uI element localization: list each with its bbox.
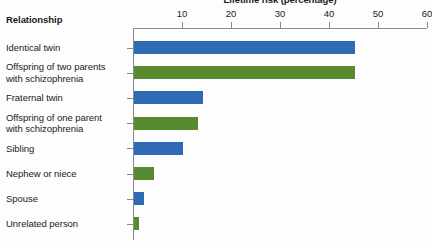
bar — [134, 91, 203, 104]
bar — [134, 117, 198, 130]
category-axis-tick — [127, 123, 133, 124]
bar-category-label: Offspring of two parents with schizophre… — [6, 61, 105, 84]
category-axis-tick — [127, 199, 133, 200]
category-axis-tick — [127, 174, 133, 175]
bar-category-label: Sibling — [6, 143, 34, 155]
bar-category-label: Nephew or niece — [6, 168, 77, 180]
bar — [134, 217, 139, 230]
category-axis-tick — [127, 98, 133, 99]
category-axis-tick — [127, 48, 133, 49]
bar — [134, 142, 183, 155]
bar-category-label: Offspring of one parent with schizophren… — [6, 112, 102, 135]
bar — [134, 66, 355, 79]
category-axis-tick — [127, 73, 133, 74]
bar-category-label: Spouse — [6, 193, 38, 205]
bar-category-label: Unrelated person — [6, 218, 78, 230]
bar — [134, 41, 355, 54]
bar — [134, 167, 154, 180]
category-axis-tick — [127, 224, 133, 225]
bar-category-label: Identical twin — [6, 42, 60, 54]
category-axis-tick — [127, 148, 133, 149]
bar — [134, 192, 144, 205]
bar-category-label: Fraternal twin — [6, 92, 63, 104]
